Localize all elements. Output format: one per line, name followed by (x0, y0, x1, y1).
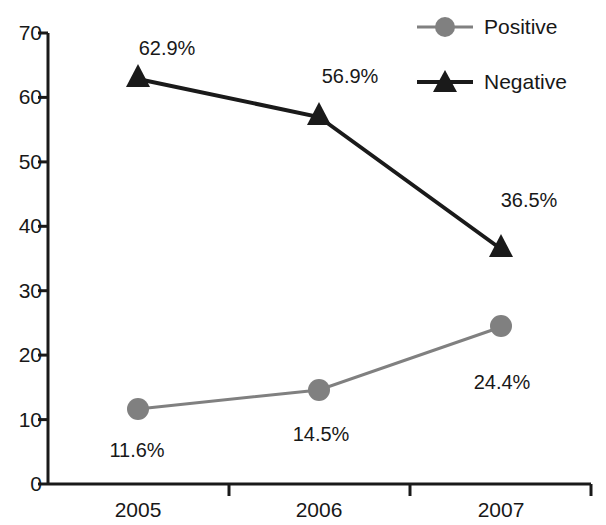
y-axis-labels: 70 60 50 40 30 20 10 0 (0, 0, 42, 525)
data-label-positive-2005: 11.6% (109, 440, 164, 460)
legend-label-positive: Positive (484, 16, 558, 37)
data-label-negative-2006: 56.9% (322, 66, 379, 86)
legend-marker-positive (417, 17, 473, 37)
x-tick-label-2006: 2006 (296, 499, 343, 520)
y-tick-label: 10 (2, 409, 42, 430)
legend-item-negative[interactable]: Negative (480, 71, 567, 92)
marker-positive-2005 (127, 398, 149, 420)
marker-positive-2006 (308, 379, 330, 401)
marker-positive-2007 (490, 315, 512, 337)
marker-negative-2005 (126, 64, 150, 87)
line-chart: 70 60 50 40 30 20 10 0 2005 2006 2007 62… (0, 0, 606, 525)
y-tick-label: 70 (2, 22, 42, 43)
y-tick-label: 0 (2, 473, 42, 494)
legend-label-negative: Negative (484, 71, 567, 92)
marker-negative-2007 (489, 234, 513, 257)
y-tick-label: 40 (2, 215, 42, 236)
x-tick-label-2007: 2007 (478, 499, 525, 520)
legend-item-positive[interactable]: Positive (480, 16, 558, 37)
legend-marker-negative (417, 70, 473, 92)
y-tick-label: 30 (2, 280, 42, 301)
data-label-positive-2007: 24.4% (474, 372, 531, 392)
y-tick-label: 50 (2, 151, 42, 172)
data-label-negative-2005: 62.9% (139, 38, 196, 58)
y-tick-label: 60 (2, 86, 42, 107)
data-label-positive-2006: 14.5% (293, 424, 350, 444)
x-axis-ticks (229, 484, 591, 496)
x-tick-label-2005: 2005 (115, 499, 162, 520)
data-label-negative-2007: 36.5% (501, 190, 558, 210)
y-tick-label: 20 (2, 344, 42, 365)
